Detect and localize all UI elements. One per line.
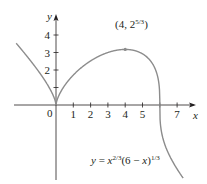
- local-max-point: [124, 48, 127, 51]
- x-tick-label: 4: [122, 108, 128, 120]
- origin-label: 0: [47, 107, 53, 119]
- x-axis-label: x: [192, 109, 198, 121]
- y-tick-label: 4: [45, 29, 51, 41]
- y-tick-label: 3: [45, 47, 51, 59]
- x-tick-label: 7: [174, 108, 180, 120]
- x-tick-label: 1: [71, 108, 77, 120]
- y-tick-label: 2: [45, 64, 51, 76]
- y-axis-label: y: [46, 10, 52, 22]
- curve-equation-label: y = x2/3(6 − x)1/3: [90, 154, 160, 167]
- x-tick-label: 5: [140, 108, 146, 120]
- function-graph: 123457234 x y 0 (4, 25/3) y = x2/3(6 − x…: [0, 0, 207, 184]
- x-tick-label: 3: [105, 108, 111, 120]
- max-point-label: (4, 25/3): [115, 18, 148, 31]
- x-tick-label: 2: [88, 108, 94, 120]
